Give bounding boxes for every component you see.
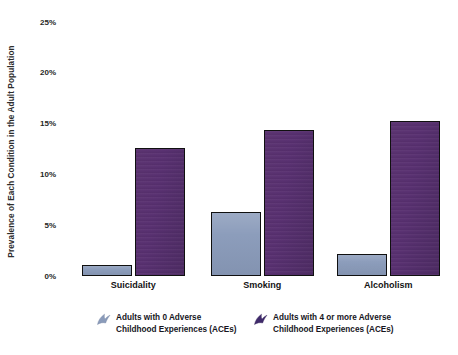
- bar: [264, 130, 314, 276]
- bar: [135, 148, 185, 276]
- plot-area: [62, 22, 450, 276]
- legend-entry-line1: Adults with 4 or more Adverse: [273, 312, 394, 324]
- legend-entry-text: Adults with 0 Adverse Childhood Experien…: [116, 312, 237, 335]
- y-axis-tick-label: 10%: [26, 170, 56, 179]
- bar: [390, 121, 440, 276]
- legend-entry-line2: Childhood Experiences (ACEs): [273, 324, 394, 336]
- flag-marker-icon: [253, 313, 268, 326]
- y-axis-tick-label: 25%: [26, 18, 56, 27]
- x-axis-category-labels: SuicidalitySmokingAlcoholism: [62, 280, 450, 294]
- legend-entry-series-a: Adults with 0 Adverse Childhood Experien…: [96, 312, 237, 335]
- legend-entry-text: Adults with 4 or more Adverse Childhood …: [273, 312, 394, 335]
- legend-entry-line1: Adults with 0 Adverse: [116, 312, 237, 324]
- y-axis-tick-label: 20%: [26, 68, 56, 77]
- chart-legend: Adults with 0 Adverse Childhood Experien…: [0, 312, 458, 352]
- bar: [82, 265, 132, 276]
- x-axis-category-label: Alcoholism: [337, 280, 440, 290]
- y-axis-title-label: Prevalence of Each Condition in the Adul…: [7, 45, 16, 257]
- bar: [211, 212, 261, 276]
- bar: [337, 254, 387, 276]
- y-axis-title: Prevalence of Each Condition in the Adul…: [0, 20, 22, 282]
- legend-entry-series-b: Adults with 4 or more Adverse Childhood …: [253, 312, 394, 335]
- bar-chart: Prevalence of Each Condition in the Adul…: [0, 0, 458, 355]
- y-axis-tick-label: 15%: [26, 119, 56, 128]
- legend-entry-line2: Childhood Experiences (ACEs): [116, 324, 237, 336]
- y-axis-tick-label: 0%: [26, 272, 56, 281]
- x-axis-category-label: Smoking: [211, 280, 314, 290]
- x-axis-category-label: Suicidality: [82, 280, 185, 290]
- flag-marker-icon: [96, 313, 111, 326]
- y-axis-tick-label: 5%: [26, 221, 56, 230]
- y-axis-tick-labels: 25%20%15%10%5%0%: [22, 22, 56, 276]
